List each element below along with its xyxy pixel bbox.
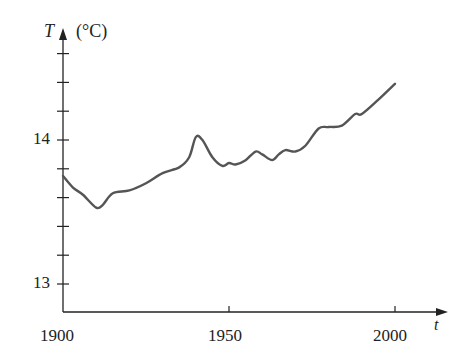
y-tick-label-13: 13 — [33, 273, 50, 293]
y-axis-arrow-icon — [59, 28, 67, 40]
y-axis-unit: (°C) — [76, 21, 107, 42]
x-axis-label: t — [434, 316, 438, 334]
x-axis-arrow-icon — [436, 308, 448, 316]
temperature-chart — [0, 0, 469, 360]
y-tick-label-14: 14 — [33, 129, 50, 149]
y-axis-label: T — [44, 21, 54, 42]
x-tick-label-2000: 2000 — [373, 326, 407, 346]
temperature-curve — [63, 84, 395, 208]
x-tick-label-1900: 1900 — [40, 326, 74, 346]
x-tick-label-1950: 1950 — [208, 326, 242, 346]
x-axis-ticks — [229, 306, 395, 312]
